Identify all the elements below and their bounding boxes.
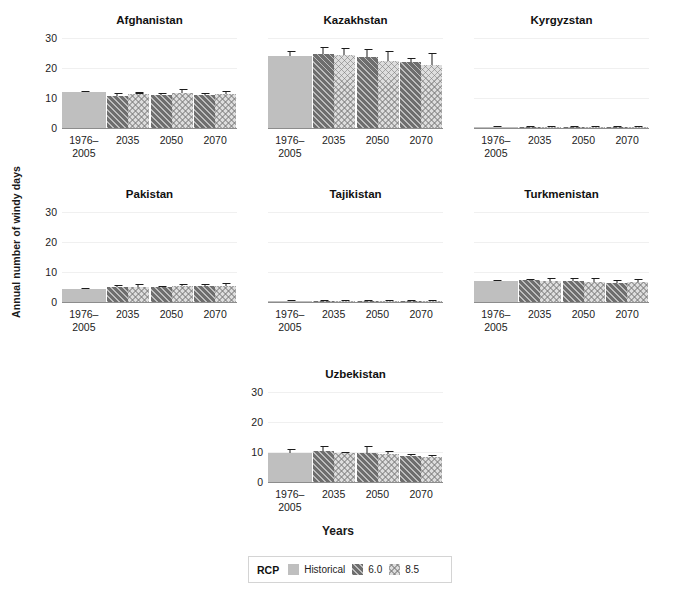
bar[interactable]: [172, 93, 193, 128]
bar-slot: [519, 206, 540, 302]
bar[interactable]: [128, 94, 149, 128]
windy-days-figure: Annual number of windy days Years Afghan…: [0, 0, 676, 592]
bar[interactable]: [268, 56, 312, 128]
panel-title-turkmenistan: Turkmenistan: [474, 188, 649, 200]
bar-group: [562, 206, 606, 302]
x-tick-label: 1976–2005: [268, 304, 312, 333]
bar[interactable]: [421, 457, 442, 482]
panel-title-afghanistan: Afghanistan: [62, 14, 237, 26]
bar-slot: [400, 32, 421, 128]
bar-slot: [268, 32, 312, 128]
bar-slot: [627, 32, 648, 128]
y-axis-title: Annual number of windy days: [10, 162, 22, 322]
bar[interactable]: [378, 454, 399, 482]
bar[interactable]: [313, 451, 334, 482]
bar[interactable]: [357, 453, 378, 482]
x-tick-label: 2070: [193, 130, 237, 159]
x-axis-line: [268, 302, 443, 303]
x-axis-line: [268, 482, 443, 483]
bar-group: [106, 206, 150, 302]
y-tick-label: 10: [45, 266, 57, 278]
bar-slot: [313, 386, 334, 482]
bar[interactable]: [268, 453, 312, 482]
bar[interactable]: [62, 289, 106, 302]
x-tick-label: 2070: [193, 304, 237, 333]
x-axis-line: [474, 302, 649, 303]
panel-title-pakistan: Pakistan: [62, 188, 237, 200]
bar[interactable]: [584, 282, 605, 302]
bar-group: [62, 206, 106, 302]
y-tick-label: 30: [45, 32, 57, 44]
x-tick-labels: 1976–2005203520502070: [474, 304, 649, 333]
bar[interactable]: [400, 456, 421, 482]
x-tick-label: 1976–2005: [268, 130, 312, 159]
bar-group: [356, 32, 400, 128]
bar[interactable]: [62, 92, 106, 128]
bar-slot: [606, 206, 627, 302]
plot-area: [474, 32, 649, 128]
x-tick-label: 2070: [399, 484, 443, 513]
bar[interactable]: [313, 54, 334, 128]
bar[interactable]: [334, 55, 355, 128]
bar-group: [312, 32, 356, 128]
bar-group: [268, 32, 312, 128]
y-tick-label: 10: [251, 446, 263, 458]
bar-group: [356, 386, 400, 482]
bar-group: [474, 32, 518, 128]
x-tick-labels: 1976–2005203520502070: [268, 130, 443, 159]
bar[interactable]: [400, 62, 421, 128]
bar[interactable]: [215, 94, 236, 128]
bar-slot: [128, 206, 149, 302]
bar-group: [62, 32, 106, 128]
y-tick-label: 30: [45, 206, 57, 218]
legend-item-historical[interactable]: Historical: [288, 564, 345, 575]
legend-item-rcp60[interactable]: 6.0: [352, 564, 382, 575]
bar[interactable]: [627, 282, 648, 302]
bar-slot: [400, 206, 421, 302]
bar[interactable]: [128, 287, 149, 302]
x-axis-line: [62, 302, 237, 303]
x-tick-label: 1976–2005: [62, 304, 106, 333]
legend-title: RCP: [257, 564, 279, 576]
x-tick-label: 1976–2005: [474, 130, 518, 159]
x-tick-label: 2050: [356, 130, 400, 159]
bar-slot: [151, 206, 172, 302]
bar-group: [312, 386, 356, 482]
bar[interactable]: [563, 281, 584, 302]
bar[interactable]: [151, 287, 172, 302]
bar[interactable]: [194, 286, 215, 302]
x-tick-label: 1976–2005: [62, 130, 106, 159]
bar[interactable]: [378, 61, 399, 128]
x-tick-label: 2035: [106, 130, 150, 159]
bar-slot: [107, 206, 128, 302]
plot-area: [268, 206, 443, 302]
x-tick-labels: 1976–2005203520502070: [62, 130, 237, 159]
bar[interactable]: [606, 283, 627, 302]
y-tick-label: 20: [251, 416, 263, 428]
bar-slot: [474, 32, 518, 128]
bar[interactable]: [519, 280, 540, 302]
bar[interactable]: [107, 96, 128, 128]
y-tick-label: 0: [51, 122, 57, 134]
bar[interactable]: [215, 286, 236, 303]
bar-slot: [194, 32, 215, 128]
bar-group: [268, 386, 312, 482]
plot-area: [268, 32, 443, 128]
bar-slot: [584, 206, 605, 302]
legend-item-rcp85[interactable]: 8.5: [389, 564, 419, 575]
bar-slot: [215, 206, 236, 302]
bar-slot: [62, 206, 106, 302]
bar[interactable]: [540, 281, 561, 302]
bar[interactable]: [107, 287, 128, 302]
y-tick-label: 30: [251, 386, 263, 398]
bar-slot: [540, 32, 561, 128]
bar[interactable]: [334, 453, 355, 482]
bar[interactable]: [357, 57, 378, 128]
bar[interactable]: [474, 281, 518, 302]
bar[interactable]: [151, 95, 172, 128]
bar[interactable]: [421, 65, 442, 128]
bar[interactable]: [194, 95, 215, 128]
bar[interactable]: [172, 286, 193, 302]
panel-title-kazakhstan: Kazakhstan: [268, 14, 443, 26]
legend-label-historical: Historical: [304, 564, 345, 575]
